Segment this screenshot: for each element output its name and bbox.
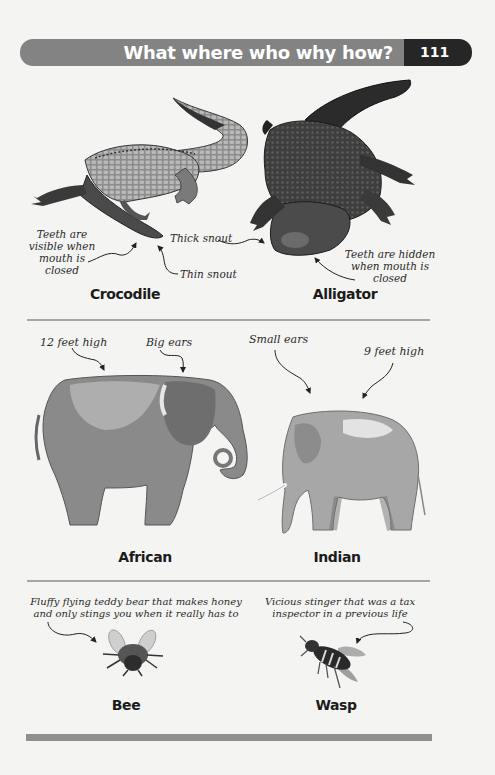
label-alligator: Alligator [290, 286, 400, 302]
label-bee: Bee [71, 697, 181, 713]
label-crocodile: Crocodile [70, 286, 180, 302]
african-elephant-illustration [25, 370, 255, 535]
label-indian: Indian [282, 549, 392, 565]
annotation-arrows-insects [0, 600, 495, 660]
bee-illustration [95, 628, 170, 678]
footer-rule [26, 734, 432, 741]
wasp-illustration [298, 630, 373, 695]
indian-elephant-illustration [253, 405, 428, 540]
section-divider [27, 580, 430, 582]
label-wasp: Wasp [281, 697, 391, 713]
annotation-arrows-reptiles [0, 0, 495, 320]
label-african: African [90, 549, 200, 565]
